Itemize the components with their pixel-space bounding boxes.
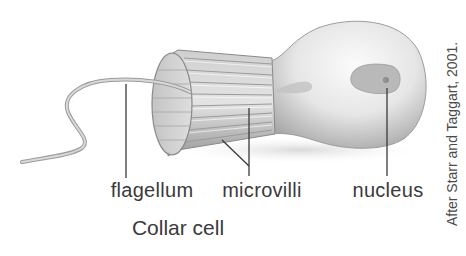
nucleus-shape <box>351 64 400 94</box>
nucleus-label: nucleus <box>352 179 423 202</box>
flagellum-label: flagellum <box>111 179 194 202</box>
collar-cell-illustration <box>0 0 466 256</box>
nucleolus <box>383 77 389 83</box>
microvilli-label: microvilli <box>222 179 302 202</box>
diagram-title: Collar cell <box>132 216 224 240</box>
source-credit: After Starr and Taggart, 2001. <box>444 42 460 226</box>
